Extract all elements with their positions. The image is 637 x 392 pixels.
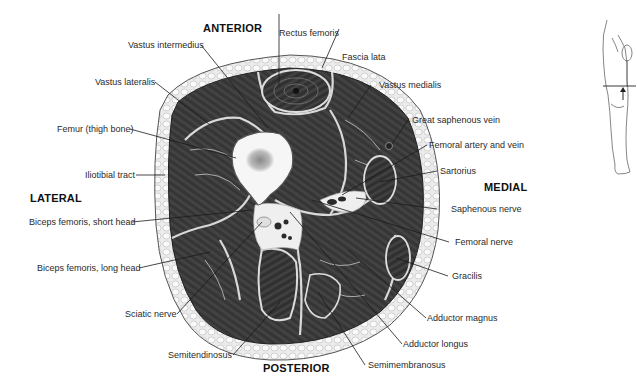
lateral-label: LATERAL: [30, 192, 82, 204]
label-saphenous-nerve: Saphenous nerve: [451, 204, 522, 214]
sciatic-nerve-vessel: [275, 223, 282, 230]
gracilis-muscle: [386, 236, 410, 280]
label-vastus-medialis: Vastus medialis: [379, 80, 441, 90]
great-saphenous-vein: [386, 143, 393, 150]
label-gracilis: Gracilis: [452, 271, 482, 281]
label-biceps-short-head: Biceps femoris, short head: [29, 217, 136, 227]
label-sciatic-nerve: Sciatic nerve: [125, 309, 177, 319]
label-femur: Femur (thigh bone): [57, 124, 134, 134]
label-vastus-lateralis: Vastus lateralis: [95, 77, 155, 87]
anterior-label: ANTERIOR: [203, 22, 262, 34]
cross-section-illustration: [0, 0, 637, 392]
label-adductor-magnus: Adductor magnus: [427, 313, 498, 323]
label-biceps-long-head: Biceps femoris, long head: [37, 263, 141, 273]
label-rectus-femoris: Rectus femoris: [279, 28, 339, 38]
thigh-cross-section-figure: ANTERIOR POSTERIOR LATERAL MEDIAL Rectus…: [0, 0, 637, 392]
label-semitendinosus: Semitendinosus: [168, 350, 232, 360]
label-vastus-intermedius: Vastus intermedius: [128, 40, 204, 50]
label-femoral-artery-vein: Femoral artery and vein: [429, 140, 524, 150]
medial-label: MEDIAL: [484, 181, 527, 193]
label-adductor-longus: Adductor longus: [403, 339, 468, 349]
arrow-up-icon: [620, 87, 626, 92]
label-iliotibial-tract: Iliotibial tract: [85, 170, 135, 180]
leg-location-inset: [603, 20, 636, 174]
label-femoral-nerve: Femoral nerve: [455, 237, 513, 247]
label-semimembranosus: Semimembranosus: [368, 360, 446, 370]
posterior-label: POSTERIOR: [263, 362, 330, 374]
label-fascia-lata: Fascia lata: [342, 52, 386, 62]
posterior-fat-region: [254, 203, 303, 250]
label-sartorius: Sartorius: [440, 166, 476, 176]
rectus-femoris-muscle: [262, 70, 330, 112]
label-great-saphenous-vein: Great saphenous vein: [412, 115, 500, 125]
semitendinosus-muscle: [259, 249, 298, 320]
